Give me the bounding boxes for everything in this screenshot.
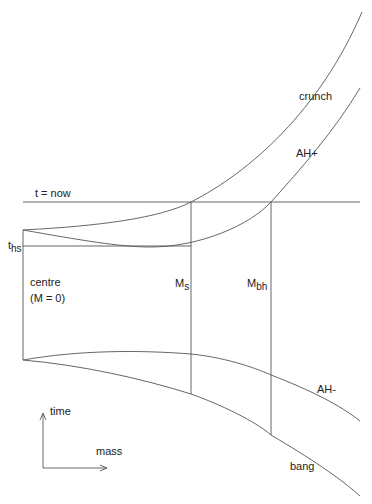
mbh-sub: bh <box>256 281 267 292</box>
t-hs-sub: hs <box>11 243 22 254</box>
t-hs-label: ths <box>8 239 22 252</box>
ms-main: M <box>175 277 184 289</box>
ah-plus-curve <box>23 88 360 247</box>
ah-plus-label: AH+ <box>296 147 318 160</box>
ms-label: Ms <box>175 277 189 290</box>
mbh-main: M <box>247 277 256 289</box>
mbh-label: Mbh <box>247 277 267 290</box>
crunch-label: crunch <box>299 90 332 103</box>
crunch-curve <box>23 12 362 230</box>
spacetime-diagram <box>0 0 372 504</box>
ah-minus-label: AH- <box>317 383 336 396</box>
centre-label: centre <box>30 276 61 289</box>
mass-axis-label: mass <box>96 445 122 458</box>
ah-minus-curve <box>23 352 360 421</box>
ms-sub: s <box>184 281 189 292</box>
t-now-label: t = now <box>35 187 71 200</box>
centre-mass-label: (M = 0) <box>30 292 65 305</box>
time-axis-label: time <box>50 405 71 418</box>
bang-curve <box>23 360 360 496</box>
bang-label: bang <box>290 460 314 473</box>
